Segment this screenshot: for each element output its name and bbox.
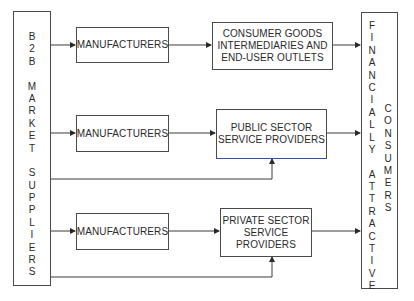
suppliers-letter: S bbox=[29, 167, 36, 179]
financially-attractive-letter: R bbox=[368, 206, 375, 218]
financially-attractive-letter: T bbox=[369, 181, 375, 193]
financially-attractive-letter: E bbox=[369, 280, 376, 292]
suppliers-letter: I bbox=[31, 229, 34, 241]
financially-attractive-letter: I bbox=[371, 32, 374, 44]
manufacturers-box-3: MANUFACTURERS bbox=[76, 213, 169, 250]
financially-attractive-letter: A bbox=[369, 218, 376, 230]
financially-attractive-letter: F bbox=[369, 20, 375, 32]
consumers-label: CONSUMERS bbox=[383, 103, 393, 215]
financially-attractive-letter: C bbox=[368, 231, 375, 243]
b2b-market-suppliers-box: B2BMARKETSUPPLIERS bbox=[13, 11, 51, 286]
consumers-letter: O bbox=[384, 115, 392, 127]
financially-attractive-consumers-box: FINANCIALLYATTRACTIVE CONSUMERS bbox=[361, 12, 398, 289]
financially-attractive-letter: A bbox=[369, 169, 376, 181]
consumer-goods-intermediaries-label: CONSUMER GOODS INTERMEDIARIES AND END-US… bbox=[217, 28, 327, 64]
consumers-letter: M bbox=[384, 165, 392, 177]
financially-attractive-letter: N bbox=[368, 45, 375, 57]
arrow-suppliers-direct-to-public-sector bbox=[50, 159, 272, 179]
financially-attractive-letter: V bbox=[369, 268, 376, 280]
suppliers-letter: 2 bbox=[29, 43, 35, 55]
consumers-letter: E bbox=[385, 177, 392, 189]
suppliers-letter: P bbox=[29, 204, 36, 216]
connector-layer bbox=[0, 0, 414, 301]
manufacturers-box-2: MANUFACTURERS bbox=[76, 115, 169, 152]
suppliers-letter: U bbox=[28, 180, 35, 192]
consumers-letter: U bbox=[384, 153, 391, 165]
arrow-suppliers-direct-to-private-sector bbox=[50, 257, 272, 277]
financially-attractive-letter: A bbox=[369, 107, 376, 119]
b2b-market-suppliers-label: B2BMARKETSUPPLIERS bbox=[28, 31, 36, 279]
suppliers-letter: E bbox=[29, 130, 36, 142]
manufacturers-label-1: MANUFACTURERS bbox=[77, 39, 168, 51]
manufacturers-label-2: MANUFACTURERS bbox=[77, 128, 168, 140]
suppliers-letter: T bbox=[29, 143, 35, 155]
suppliers-letter: M bbox=[28, 81, 36, 93]
financially-attractive-letter: N bbox=[368, 70, 375, 82]
financially-attractive-letter: A bbox=[369, 57, 376, 69]
private-sector-service-providers-box: PRIVATE SECTOR SERVICE PROVIDERS bbox=[220, 208, 312, 257]
suppliers-letter: R bbox=[28, 105, 35, 117]
private-sector-service-providers-label: PRIVATE SECTOR SERVICE PROVIDERS bbox=[221, 215, 311, 251]
suppliers-letter: K bbox=[29, 118, 36, 130]
public-sector-service-providers-label: PUBLIC SECTOR SERVICE PROVIDERS bbox=[218, 122, 325, 146]
consumers-letter: C bbox=[384, 103, 391, 115]
consumers-letter: S bbox=[385, 202, 392, 214]
suppliers-letter: E bbox=[29, 242, 36, 254]
financially-attractive-label: FINANCIALLYATTRACTIVE bbox=[367, 20, 377, 293]
consumer-goods-intermediaries-box: CONSUMER GOODS INTERMEDIARIES AND END-US… bbox=[212, 22, 333, 70]
manufacturers-label-3: MANUFACTURERS bbox=[77, 226, 168, 238]
suppliers-letter: P bbox=[29, 192, 36, 204]
suppliers-letter: R bbox=[28, 254, 35, 266]
financially-attractive-letter: L bbox=[369, 132, 375, 144]
financially-attractive-letter: T bbox=[369, 193, 375, 205]
suppliers-letter: A bbox=[29, 93, 36, 105]
consumers-letter: N bbox=[384, 128, 391, 140]
financially-attractive-letter: T bbox=[369, 243, 375, 255]
suppliers-letter: L bbox=[29, 217, 35, 229]
suppliers-letter: S bbox=[29, 266, 36, 278]
consumers-letter: R bbox=[384, 190, 391, 202]
financially-attractive-letter: L bbox=[369, 119, 375, 131]
financially-attractive-letter: I bbox=[371, 255, 374, 267]
consumers-letter: S bbox=[385, 140, 392, 152]
financially-attractive-letter: Y bbox=[369, 144, 376, 156]
public-sector-service-providers-box: PUBLIC SECTOR SERVICE PROVIDERS bbox=[216, 109, 327, 159]
financially-attractive-letter: C bbox=[368, 82, 375, 94]
suppliers-letter: B bbox=[29, 56, 36, 68]
suppliers-letter: B bbox=[29, 31, 36, 43]
financially-attractive-letter: I bbox=[371, 94, 374, 106]
manufacturers-box-1: MANUFACTURERS bbox=[76, 27, 169, 63]
